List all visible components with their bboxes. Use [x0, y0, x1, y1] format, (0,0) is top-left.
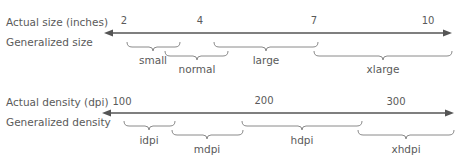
brace-small [127, 42, 180, 51]
brace-large [214, 42, 318, 51]
diagram-graphics [0, 0, 464, 164]
density-braces [124, 121, 454, 139]
brace-normal [165, 51, 228, 60]
brace-idpi [124, 121, 175, 130]
brace-xhdpi [358, 130, 454, 139]
brace-hdpi [242, 121, 362, 130]
brace-xlarge [314, 51, 452, 60]
density-axis-arrow [102, 110, 454, 117]
brace-mdpi [172, 130, 243, 139]
size-braces [127, 42, 452, 60]
size-axis-arrow [104, 30, 452, 37]
